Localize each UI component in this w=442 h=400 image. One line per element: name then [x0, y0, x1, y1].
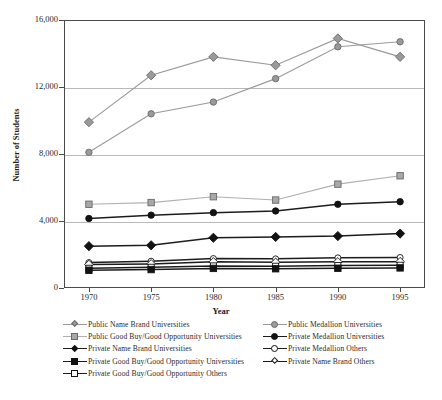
gridline: [65, 88, 424, 89]
legend-marker-icon: [262, 318, 288, 330]
gridline: [65, 222, 424, 223]
legend-label: Private Good Buy/Good Opportunity Univer…: [88, 357, 244, 366]
x-tick-mark: [213, 288, 214, 292]
x-tick-label: 1990: [318, 292, 358, 302]
x-tick-mark: [276, 288, 277, 292]
x-tick-mark: [89, 288, 90, 292]
legend-label: Private Good Buy/Good Opportunity Others: [88, 369, 227, 378]
legend-item[interactable]: Private Name Brand Universities: [62, 343, 262, 355]
y-tick-label: 4,000: [8, 215, 58, 225]
legend-label: Private Name Brand Universities: [88, 344, 192, 353]
legend-marker-icon: [62, 343, 88, 355]
legend-label: Private Name Brand Others: [288, 357, 375, 366]
legend-label: Public Medallion Universities: [288, 320, 382, 329]
y-tick-label: 0: [8, 282, 58, 292]
legend-item[interactable]: Private Name Brand Others: [262, 355, 442, 367]
legend-item[interactable]: Private Medallion Universities: [262, 330, 442, 342]
legend-marker-icon: [62, 367, 88, 379]
legend-marker-icon: [62, 318, 88, 330]
x-tick-mark: [151, 288, 152, 292]
x-tick-mark: [400, 288, 401, 292]
x-tick-label: 1975: [131, 292, 171, 302]
chart-container: 04,0008,00012,00016,000 Number of Studen…: [0, 0, 442, 400]
legend-item[interactable]: Private Good Buy/Good Opportunity Others: [62, 367, 262, 379]
legend-column-left: Public Name Brand UniversitiesPublic Goo…: [62, 318, 262, 379]
x-tick-mark: [338, 288, 339, 292]
y-axis-title: Number of Students: [11, 85, 21, 205]
gridline: [65, 155, 424, 156]
legend-item[interactable]: Private Medallion Others: [262, 343, 442, 355]
x-tick-label: 1985: [256, 292, 296, 302]
plot-area: [64, 20, 425, 288]
legend-label: Private Medallion Universities: [288, 332, 384, 341]
legend-column-right: Public Medallion UniversitiesPrivate Med…: [262, 318, 442, 379]
legend-label: Public Good Buy/Good Opportunity Univers…: [88, 332, 242, 341]
legend-marker-icon: [262, 355, 288, 367]
legend-label: Private Medallion Others: [288, 344, 367, 353]
y-tick-mark: [59, 288, 64, 289]
x-tick-label: 1995: [380, 292, 420, 302]
legend-marker-icon: [62, 355, 88, 367]
legend-marker-icon: [262, 343, 288, 355]
legend-marker-icon: [62, 330, 88, 342]
chart-legend: Public Name Brand UniversitiesPublic Goo…: [62, 318, 442, 379]
x-axis-title: Year: [0, 306, 442, 316]
legend-label: Public Name Brand Universities: [88, 320, 190, 329]
legend-item[interactable]: Private Good Buy/Good Opportunity Univer…: [62, 355, 262, 367]
legend-marker-icon: [262, 330, 288, 342]
x-tick-label: 1970: [69, 292, 109, 302]
legend-item[interactable]: Public Good Buy/Good Opportunity Univers…: [62, 330, 262, 342]
x-tick-label: 1980: [193, 292, 233, 302]
legend-item[interactable]: Public Medallion Universities: [262, 318, 442, 330]
legend-item[interactable]: Public Name Brand Universities: [62, 318, 262, 330]
y-tick-label: 16,000: [8, 14, 58, 24]
